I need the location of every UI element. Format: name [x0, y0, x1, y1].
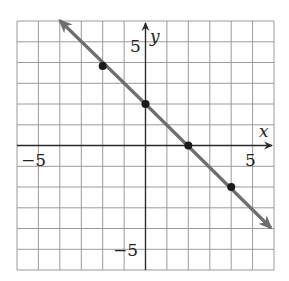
y-axis-label: y: [149, 26, 160, 46]
y-tick-label-neg5: −5: [113, 240, 138, 260]
x-tick-label-5: 5: [245, 150, 256, 170]
coordinate-plane: x y −5 5 5 −5: [0, 0, 289, 281]
point-2-0: [184, 142, 192, 150]
point-4-neg2: [227, 183, 235, 191]
point-neg2-4: [99, 62, 107, 70]
x-tick-label-neg5: −5: [21, 150, 46, 170]
point-0-2: [142, 100, 150, 108]
y-tick-label-5: 5: [130, 36, 141, 56]
x-axis-label: x: [259, 121, 269, 141]
